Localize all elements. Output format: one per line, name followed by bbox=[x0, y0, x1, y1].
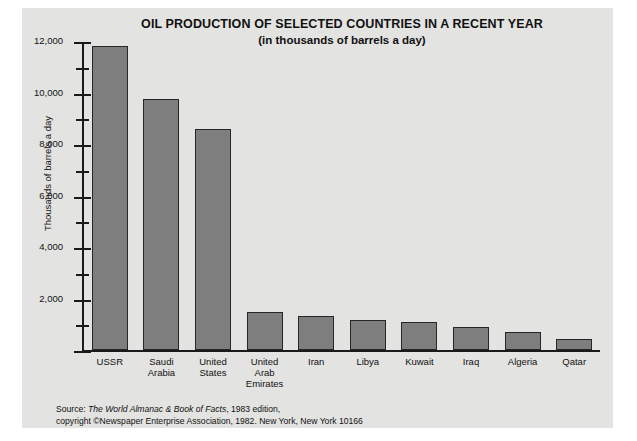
x-axis-category-labels: USSRSaudiArabiaUnitedStatesUnitedArabEmi… bbox=[84, 356, 600, 402]
bar[interactable] bbox=[556, 339, 592, 350]
y-tick-label: 4,000 bbox=[39, 241, 63, 252]
source-citation: Source: The World Almanac & Book of Fact… bbox=[56, 404, 363, 427]
bar-slot bbox=[195, 43, 231, 350]
y-tick-label: 2,000 bbox=[39, 293, 63, 304]
bar-slot bbox=[401, 43, 437, 350]
source-line-2: copyright ©Newspaper Enterprise Associat… bbox=[56, 416, 363, 428]
bar-slot bbox=[556, 43, 592, 350]
copyright-prefix: copyright bbox=[56, 416, 93, 426]
x-axis-label: Qatar bbox=[544, 356, 604, 367]
source-prefix: Source: bbox=[56, 404, 88, 414]
bar[interactable] bbox=[401, 322, 437, 350]
y-tick-label: 10,000 bbox=[34, 87, 63, 98]
bar-slot bbox=[505, 43, 541, 350]
source-publication: The World Almanac & Book of Facts bbox=[88, 404, 226, 414]
y-tick-label: 6,000 bbox=[39, 190, 63, 201]
bar[interactable] bbox=[505, 332, 541, 350]
copyright-rest: Newspaper Enterprise Association, 1982. … bbox=[100, 416, 363, 426]
bar[interactable] bbox=[143, 99, 179, 350]
bar-slot bbox=[92, 43, 128, 350]
bar[interactable] bbox=[298, 316, 334, 350]
source-line-1: Source: The World Almanac & Book of Fact… bbox=[56, 404, 363, 416]
bar-slot bbox=[143, 43, 179, 350]
bar-slot bbox=[247, 43, 283, 350]
bar[interactable] bbox=[92, 46, 128, 350]
x-axis-line bbox=[82, 350, 600, 352]
y-tick-major bbox=[74, 351, 91, 353]
plot-area: 2,0004,0006,0008,00010,00012,000 bbox=[82, 43, 600, 352]
bar-slot bbox=[453, 43, 489, 350]
bar-series bbox=[84, 43, 600, 350]
y-tick-label: 8,000 bbox=[39, 138, 63, 149]
bar[interactable] bbox=[247, 312, 283, 350]
y-tick-label: 12,000 bbox=[34, 35, 63, 46]
bar-slot bbox=[350, 43, 386, 350]
bar[interactable] bbox=[453, 327, 489, 350]
bar-slot bbox=[298, 43, 334, 350]
source-edition: , 1983 edition, bbox=[226, 404, 280, 414]
chart-title: OIL PRODUCTION OF SELECTED COUNTRIES IN … bbox=[82, 17, 602, 32]
bar[interactable] bbox=[350, 320, 386, 350]
chart-card: OIL PRODUCTION OF SELECTED COUNTRIES IN … bbox=[22, 8, 613, 428]
bar[interactable] bbox=[195, 129, 231, 350]
